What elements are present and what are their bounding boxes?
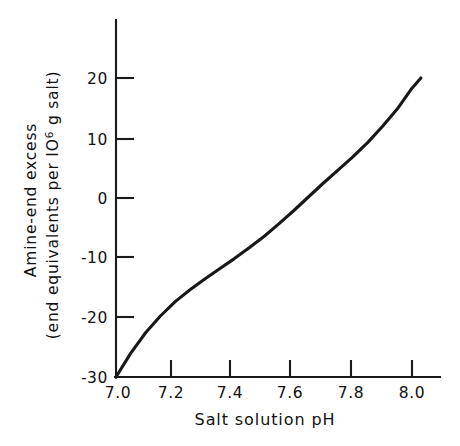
y-tick-label-0: 0 xyxy=(98,190,108,208)
figure-canvas: 20 10 0 -10 -20 -30 7.0 7.2 7.4 7.6 7.8 … xyxy=(0,0,460,446)
y-tick-label-minus-10: -10 xyxy=(81,249,108,267)
y-axis-title-line2-pre: (end equivalents per IO xyxy=(44,138,62,339)
data-series-line xyxy=(116,78,421,377)
x-tick-label-7-0: 7.0 xyxy=(105,384,131,402)
y-axis-title-line2-post: g salt) xyxy=(44,71,62,131)
x-axis-title: Salt solution pH xyxy=(195,410,336,429)
x-tick-label-7-6: 7.6 xyxy=(277,384,303,402)
y-axis-title-exponent: 6 xyxy=(43,131,55,138)
chart-plot: 20 10 0 -10 -20 -30 7.0 7.2 7.4 7.6 7.8 … xyxy=(0,0,460,446)
y-axis-title-line1: Amine-end excess xyxy=(22,123,40,277)
x-tick-label-7-4: 7.4 xyxy=(217,384,243,402)
y-tick-label-10: 10 xyxy=(87,131,108,149)
y-axis-title-line2: (end equivalents per IO6 g salt) xyxy=(43,71,62,340)
x-tick-label-8-0: 8.0 xyxy=(399,384,425,402)
x-tick-label-7-8: 7.8 xyxy=(338,384,364,402)
y-tick-label-20: 20 xyxy=(87,70,108,88)
x-tick-marks xyxy=(171,360,412,377)
y-tick-marks xyxy=(116,78,134,317)
x-tick-label-7-2: 7.2 xyxy=(158,384,184,402)
y-tick-label-minus-20: -20 xyxy=(81,309,108,327)
